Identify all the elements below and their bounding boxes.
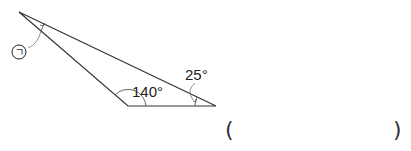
angle-25-leader <box>190 83 195 100</box>
top-angle-arc <box>41 23 45 31</box>
answer-close-paren: ) <box>393 117 402 142</box>
angle-140-label: 140° <box>132 83 163 100</box>
angle-25-label: 25° <box>185 66 208 83</box>
answer-open-paren: ( <box>225 117 234 142</box>
answer-blank[interactable] <box>240 118 390 144</box>
angle-label-text: ㄱ <box>15 47 24 58</box>
top-angle-leader <box>28 31 41 48</box>
triangle <box>19 12 216 106</box>
